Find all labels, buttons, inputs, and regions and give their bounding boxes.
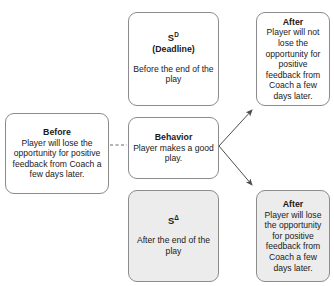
- connector-behavior-to-after-positive: [219, 110, 252, 146]
- box-after-negative-title: After: [283, 199, 304, 210]
- box-s-delta-title-superscript: Δ: [174, 213, 179, 220]
- box-sd-title: SD: [168, 33, 179, 44]
- box-s-delta-title: SΔ: [168, 216, 179, 227]
- box-after-positive-body: Player will not lose the opportunity for…: [261, 27, 325, 101]
- contingency-diagram: SD (Deadline) Before the end of the play…: [0, 0, 334, 286]
- box-before: Before Player will lose the opportunity …: [5, 113, 109, 194]
- box-before-body: Player will lose the opportunity for pos…: [10, 138, 104, 180]
- box-discriminative-stimulus: SD (Deadline) Before the end of the play: [128, 12, 219, 106]
- box-behavior-title: Behavior: [155, 132, 193, 143]
- box-sd-title-superscript: D: [174, 31, 179, 38]
- box-after-positive: After Player will not lose the opportuni…: [256, 12, 330, 106]
- box-s-delta-body: After the end of the play: [133, 235, 214, 256]
- box-sd-body: Before the end of the play: [133, 64, 214, 85]
- connector-behavior-to-after-negative: [219, 146, 252, 185]
- box-behavior-body: Player makes a good play.: [133, 143, 214, 164]
- box-before-title: Before: [43, 127, 71, 138]
- box-s-delta: SΔ After the end of the play: [128, 190, 219, 282]
- box-after-negative: After Player will lose the opportunity f…: [256, 190, 330, 282]
- box-after-negative-body: Player will lose the opportunity for pos…: [261, 210, 325, 274]
- box-after-positive-title: After: [283, 17, 304, 28]
- box-sd-subtitle: (Deadline): [152, 44, 195, 55]
- box-behavior: Behavior Player makes a good play.: [128, 117, 219, 179]
